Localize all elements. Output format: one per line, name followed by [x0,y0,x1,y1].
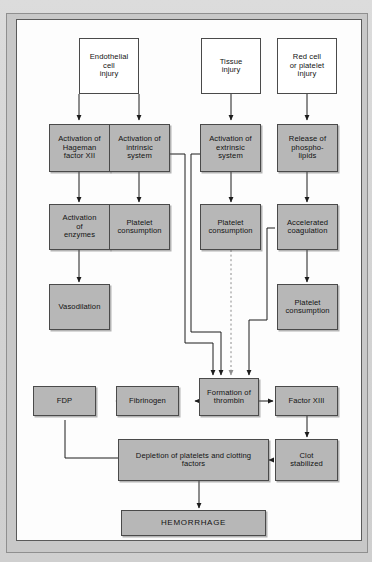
node-activation-of-hageman-factor-xii[interactable]: Activation ofHagemanfactor XII [49,124,110,172]
node-tissue-injury[interactable]: Tissueinjury [201,38,261,94]
node-clot-stabilized[interactable]: Clotstabilized [275,439,338,481]
node-label: Plateletconsumption [208,219,252,236]
node-factor-xiii[interactable]: Factor XIII [275,386,338,416]
node-fdp[interactable]: FDP [33,386,96,416]
node-label: Activation ofextrinsicsystem [209,135,252,161]
node-label: Plateletconsumption [285,299,329,316]
node-hemorrhage[interactable]: HEMORRHAGE [121,510,266,536]
node-label: HEMORRHAGE [161,519,226,528]
node-accelerated-coagulation[interactable]: Acceleratedcoagulation [277,204,338,250]
node-label: FDP [57,397,73,406]
node-label: Plateletconsumption [117,219,161,236]
node-label: Release ofphospho-lipids [289,135,326,161]
node-release-of-phospholipids[interactable]: Release ofphospho-lipids [277,124,338,172]
node-vasodilation[interactable]: Vasodilation [49,284,110,330]
node-label: Clotstabilized [290,452,323,469]
node-label: Endothelialcellinjury [90,53,129,79]
node-platelet-consumption-intrinsic[interactable]: Plateletconsumption [109,204,170,250]
node-activation-of-extrinsic-system[interactable]: Activation ofextrinsicsystem [200,124,261,172]
flowchart-canvas: Endothelialcellinjury Tissueinjury Red c… [16,19,362,541]
node-platelet-consumption-accelerated[interactable]: Plateletconsumption [277,284,338,330]
node-activation-of-intrinsic-system[interactable]: Activation ofintrinsicsystem [109,124,170,172]
node-label: Fibrinogen [129,397,166,406]
node-label: Formation ofthrombin [207,389,251,406]
node-activation-of-enzymes[interactable]: Activationofenzymes [49,204,110,250]
node-formation-of-thrombin[interactable]: Formation ofthrombin [199,378,259,416]
node-label: Acceleratedcoagulation [287,219,328,236]
top-caption-strip [0,0,372,10]
node-label: Activation ofHagemanfactor XII [58,135,101,161]
node-depletion-of-platelets-and-clotting-factors[interactable]: Depletion of platelets and clottingfacto… [118,439,269,481]
node-label: Activation ofintrinsicsystem [118,135,161,161]
node-endothelial-cell-injury[interactable]: Endothelialcellinjury [79,38,139,94]
node-red-cell-or-platelet-injury[interactable]: Red cellor plateletinjury [277,38,337,94]
node-label: Depletion of platelets and clottingfacto… [136,452,251,469]
node-label: Tissueinjury [220,58,243,75]
node-fibrinogen[interactable]: Fibrinogen [116,386,179,416]
node-label: Factor XIII [288,397,324,406]
node-label: Activationofenzymes [63,214,97,240]
node-platelet-consumption-extrinsic[interactable]: Plateletconsumption [200,204,261,250]
node-label: Vasodilation [58,303,100,312]
node-label: Red cellor plateletinjury [290,53,324,79]
